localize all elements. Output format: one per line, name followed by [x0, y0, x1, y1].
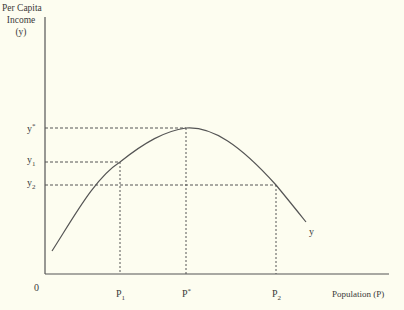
label-y-star: y* [27, 121, 36, 134]
income-curve [52, 128, 306, 251]
diagram-canvas [0, 0, 404, 310]
curve-label: y [309, 226, 314, 237]
label-p1: P1 [116, 288, 125, 304]
x-axis-title: Population (P) [332, 289, 384, 300]
label-p-star: P* [182, 286, 191, 299]
y-axis-title: Per Capita Income (y) [2, 2, 40, 38]
label-y2: y2 [27, 177, 36, 193]
label-y1: y1 [27, 154, 36, 170]
origin-label: 0 [34, 282, 39, 293]
label-p2: P2 [272, 288, 281, 304]
